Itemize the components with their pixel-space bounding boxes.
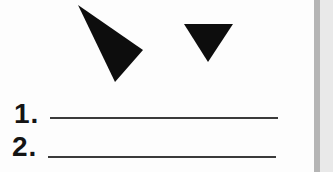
large-triangle-icon (78, 5, 143, 82)
shapes-figure (0, 0, 333, 172)
worksheet-page: 1. 2. (0, 0, 333, 172)
question-1-answer-blank (50, 117, 278, 119)
question-1-number: 1. (14, 100, 39, 128)
question-2-answer-blank (48, 156, 276, 158)
question-2-number: 2. (12, 133, 37, 161)
page-edge-margin (320, 0, 333, 172)
small-triangle-icon (184, 24, 233, 62)
